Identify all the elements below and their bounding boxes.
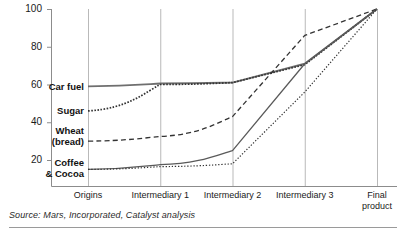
source-note: Source: Mars, Incorporated, Catalyst ana…	[9, 210, 195, 220]
x-tick-label-0: Origins	[48, 190, 128, 201]
x-tick-label-1: Intermediary 1	[120, 190, 200, 201]
chart-figure: 20406080100 OriginsIntermediary 1Interme…	[0, 0, 405, 233]
series-label-car-fuel: Car fuel	[14, 82, 84, 93]
y-tick-label-80: 80	[14, 42, 42, 52]
y-tick-label-100: 100	[14, 4, 42, 14]
chart-axes	[52, 9, 398, 187]
series-label-wheat: Wheat (bread)	[14, 126, 84, 147]
x-tick-label-2: Intermediary 2	[193, 190, 273, 201]
series-label-coffee: Coffee & Cocoa	[14, 158, 84, 179]
x-tick-label-3: Intermediary 3	[265, 190, 345, 201]
bottom-divider	[9, 227, 397, 228]
vertical-gridlines	[89, 9, 378, 187]
x-tick-label-4: Final product	[337, 190, 405, 211]
series-label-sugar: Sugar	[14, 106, 84, 117]
